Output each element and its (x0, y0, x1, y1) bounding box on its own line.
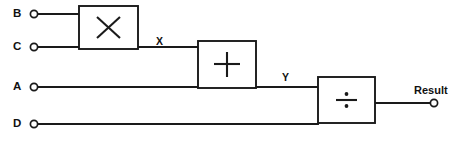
terminal-input-a[interactable] (30, 83, 37, 90)
label-input-a: A (13, 81, 21, 93)
label-input-c: C (13, 41, 21, 53)
block-diagram-canvas: B C A D X Y Result (0, 0, 459, 141)
block-multiplier[interactable] (79, 6, 138, 49)
block-adder[interactable] (198, 41, 256, 88)
terminal-group-inputs (30, 10, 37, 127)
terminal-input-b[interactable] (30, 10, 37, 17)
terminal-output-result[interactable] (430, 99, 437, 106)
terminal-input-c[interactable] (30, 43, 37, 50)
diagram-vector-layer (0, 0, 459, 141)
label-input-b: B (13, 8, 21, 20)
label-input-d: D (13, 118, 21, 130)
label-signal-y: Y (282, 72, 289, 83)
terminal-input-d[interactable] (30, 120, 37, 127)
label-output-result: Result (414, 85, 448, 96)
block-divider[interactable] (318, 77, 375, 123)
label-signal-x: X (156, 36, 163, 47)
